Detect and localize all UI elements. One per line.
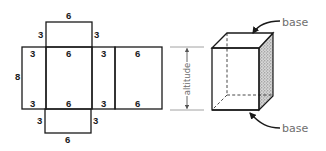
net-left-height-label: 8 (15, 71, 20, 82)
prism-front-face (212, 48, 259, 110)
net-top-width-label: 6 (66, 10, 71, 21)
net-bottom-left-depth-label: 3 (37, 115, 42, 126)
net-right-top-label: 3 (101, 48, 106, 59)
rectangular-prism-diagram: 6 3 3 8 3 3 6 6 3 3 6 6 3 3 6 altitude (0, 0, 326, 151)
rectangular-prism (212, 33, 273, 110)
net-bottom-right-depth-label: 3 (93, 115, 98, 126)
net-top-right-depth-label: 3 (94, 29, 99, 40)
net-top-left-depth-label: 3 (38, 29, 43, 40)
net-left-bottom-label: 3 (30, 98, 35, 109)
net-bottom-width-label: 6 (65, 134, 70, 145)
altitude-dimension: altitude (170, 47, 204, 110)
top-base-pointer-arrow (253, 21, 280, 33)
net-front-top-label: 6 (66, 48, 71, 59)
net-top-face (46, 22, 92, 47)
net-bottom-face (45, 109, 91, 133)
altitude-label: altitude (182, 63, 192, 96)
net-back-top-label: 6 (135, 48, 140, 59)
bottom-base-pointer-arrow (250, 113, 280, 128)
net-back-bottom-label: 6 (135, 98, 140, 109)
bottom-base-label: base (282, 122, 308, 135)
net-front-bottom-label: 6 (66, 98, 71, 109)
top-base-label: base (282, 16, 308, 29)
net-right-bottom-label: 3 (101, 98, 106, 109)
net-left-top-label: 3 (30, 48, 35, 59)
